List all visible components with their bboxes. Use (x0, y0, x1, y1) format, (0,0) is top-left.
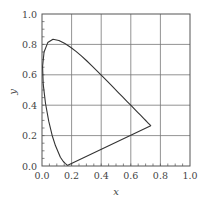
y-tick-label: 1.0 (22, 9, 37, 20)
x-axis-label: x (113, 186, 119, 197)
chromaticity-chart: 0.00.20.40.60.81.0 0.00.20.40.60.81.0 x … (0, 0, 206, 208)
x-tick-label: 0.6 (123, 170, 138, 181)
x-tick-label: 0.2 (64, 170, 79, 181)
y-axis-tick-labels: 0.00.20.40.60.81.0 (22, 9, 37, 172)
x-axis-tick-labels: 0.00.20.40.60.81.0 (34, 170, 197, 181)
y-tick-label: 0.8 (22, 39, 37, 50)
y-axis-label: y (7, 89, 18, 96)
x-tick-label: 0.8 (153, 170, 168, 181)
y-tick-label: 0.0 (22, 161, 37, 172)
y-tick-label: 0.2 (22, 130, 37, 141)
y-tick-label: 0.4 (22, 100, 37, 111)
spectral-locus-curve (43, 39, 151, 165)
x-tick-label: 0.0 (34, 170, 49, 181)
y-tick-label: 0.6 (22, 69, 37, 80)
x-tick-label: 0.4 (94, 170, 109, 181)
x-tick-label: 1.0 (182, 170, 197, 181)
